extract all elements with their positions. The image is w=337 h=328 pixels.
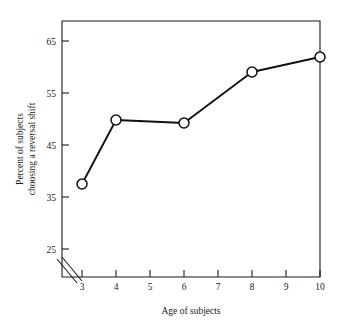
data-point-age-10[interactable] [315, 52, 325, 62]
x-tick-label-7: 7 [216, 282, 221, 292]
x-tick-label-6: 6 [182, 282, 187, 292]
y-tick-label-25: 25 [47, 245, 57, 255]
y-axis-title-line1: Percent of subjects [15, 113, 25, 185]
data-point-age-6[interactable] [179, 118, 189, 128]
y-axis-title-line2: choosing a reversal shift [27, 102, 37, 195]
data-point-age-4[interactable] [111, 115, 121, 125]
data-point-age-8[interactable] [247, 67, 257, 77]
x-tick-label-9: 9 [284, 282, 289, 292]
x-tick-label-10: 10 [315, 282, 325, 292]
x-tick-label-5: 5 [148, 282, 153, 292]
data-point-age-3[interactable] [77, 179, 87, 189]
y-tick-label-55: 55 [47, 89, 57, 99]
chart-background [0, 0, 337, 328]
x-tick-label-3: 3 [80, 282, 85, 292]
y-tick-label-65: 65 [47, 37, 57, 47]
y-tick-label-45: 45 [47, 141, 57, 151]
x-tick-label-4: 4 [114, 282, 119, 292]
chart-figure: 65 55 45 35 25 3 4 5 6 7 8 9 10 [0, 0, 337, 328]
x-axis-title: Age of subjects [161, 306, 220, 316]
y-tick-label-35: 35 [47, 193, 57, 203]
line-chart: 65 55 45 35 25 3 4 5 6 7 8 9 10 [0, 0, 337, 328]
x-tick-label-8: 8 [250, 282, 255, 292]
